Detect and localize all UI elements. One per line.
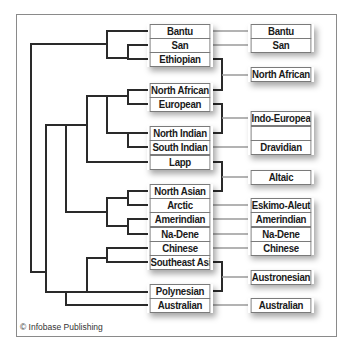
- language-family-box-empty: [251, 126, 312, 141]
- language-family-box: Dravidian: [251, 140, 312, 155]
- connector-lines: [213, 31, 248, 305]
- population-box: Lapp: [150, 155, 211, 170]
- population-box: San: [150, 38, 211, 53]
- language-family-box: Na-Dene: [251, 227, 312, 242]
- population-box: Ethiopian: [150, 52, 211, 67]
- language-family-box: Chinese: [251, 241, 312, 256]
- population-box: North Indian: [150, 126, 211, 141]
- language-family-box: Altaic: [251, 170, 312, 185]
- family-bracket-lines: [213, 59, 222, 291]
- language-family-box: Bantu: [251, 24, 312, 39]
- language-family-box: San: [251, 38, 312, 53]
- language-family-box: North African: [251, 67, 312, 82]
- population-box: North African: [150, 83, 211, 98]
- population-box: European: [150, 97, 211, 112]
- population-box: South Indian: [150, 140, 211, 155]
- population-box: Chinese: [150, 241, 211, 256]
- copyright-credit: © Infobase Publishing: [20, 322, 103, 332]
- population-box: Arctic: [150, 198, 211, 213]
- language-family-box: Australian: [251, 298, 312, 313]
- population-box: Polynesian: [150, 284, 211, 299]
- population-box: Na-Dene: [150, 227, 211, 242]
- language-family-box: Eskimo-Aleut: [251, 198, 312, 213]
- population-tree-lines: [31, 31, 147, 305]
- language-family-box: Amerindian: [251, 212, 312, 227]
- population-box: Australian: [150, 298, 211, 313]
- language-family-box: Indo-European: [251, 111, 312, 126]
- population-box: North Asian: [150, 184, 211, 199]
- population-box: Southeast Asian: [150, 255, 211, 270]
- population-box: Bantu: [150, 24, 211, 39]
- population-box: Amerindian: [150, 212, 211, 227]
- language-family-box: Austronesian: [251, 270, 312, 285]
